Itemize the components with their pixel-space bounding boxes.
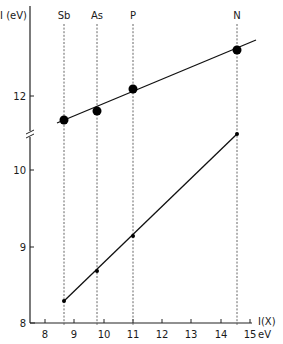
x-tick-8: 8	[42, 329, 48, 340]
y-tick-10: 10	[13, 165, 26, 176]
upper-point-p	[129, 85, 138, 94]
lower-point-p	[131, 234, 135, 238]
marker-label-sb: Sb	[58, 10, 71, 21]
y-axis-label: I (eV)	[0, 10, 27, 21]
element-markers	[64, 24, 237, 326]
x-axis-label: I(X)	[258, 316, 276, 327]
x-tick-12: 12	[156, 329, 169, 340]
y-tick-8: 8	[20, 318, 26, 329]
y-ticks	[30, 96, 35, 323]
y-tick-9: 9	[20, 242, 26, 253]
upper-point-sb	[60, 116, 69, 125]
lower-point-sb	[62, 299, 66, 303]
x-tick-10: 10	[98, 329, 111, 340]
upper-point-n	[233, 46, 242, 55]
marker-label-p: P	[130, 10, 136, 21]
marker-label-n: N	[233, 10, 240, 21]
lower-fit-line	[64, 134, 237, 301]
x-tick-15: 15	[244, 329, 257, 340]
x-unit-label: eV	[258, 329, 271, 340]
chart: 12 10 9 8 I (eV) 8 9 10 11 12 13 14 15 e…	[0, 0, 283, 344]
marker-label-as: As	[91, 10, 103, 21]
x-tick-9: 9	[71, 329, 77, 340]
x-tick-14: 14	[215, 329, 228, 340]
y-tick-12: 12	[13, 91, 26, 102]
lower-point-n	[235, 132, 239, 136]
x-tick-11: 11	[127, 329, 140, 340]
lower-point-as	[95, 269, 99, 273]
axis-break-icon	[25, 130, 35, 138]
upper-point-as	[93, 107, 102, 116]
upper-fit-line	[57, 40, 256, 123]
x-tick-13: 13	[185, 329, 198, 340]
